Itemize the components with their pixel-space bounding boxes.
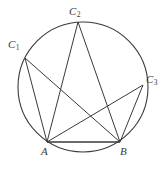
geometry-figure: C1 C2 C3 A B <box>0 0 167 170</box>
vertex-label-c3-subscript: 3 <box>154 78 158 87</box>
vertex-label-c1-letter: C <box>8 38 15 50</box>
segment-b-c3 <box>120 85 143 142</box>
vertex-label-c2-subscript: 2 <box>77 10 81 19</box>
vertex-label-c2-letter: C <box>69 5 76 17</box>
vertex-label-c2: C2 <box>69 6 80 17</box>
vertex-label-b: B <box>120 146 127 157</box>
vertex-label-c3-letter: C <box>146 73 153 85</box>
vertex-label-c3: C3 <box>146 74 157 85</box>
vertex-label-c1: C1 <box>8 39 19 50</box>
geometry-canvas <box>0 0 167 170</box>
circumscribed-circle <box>18 22 148 152</box>
vertex-label-c1-subscript: 1 <box>16 43 20 52</box>
segment-a-c1 <box>25 58 47 142</box>
vertex-label-a: A <box>41 146 48 157</box>
